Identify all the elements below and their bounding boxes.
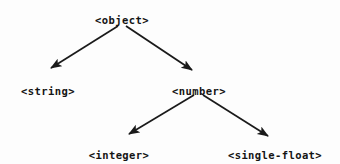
tree-diagram: <object><string><number><integer><single… — [0, 0, 340, 164]
node-number: <number> — [172, 85, 226, 97]
node-string: <string> — [21, 85, 75, 97]
edge-object-to-string — [51, 26, 118, 68]
edge-object-to-number — [126, 26, 192, 70]
edge-number-to-integer — [129, 95, 194, 134]
node-object: <object> — [95, 14, 149, 26]
edge-number-to-single-float — [203, 95, 268, 136]
edge-layer — [0, 0, 340, 164]
node-integer: <integer> — [89, 149, 150, 161]
node-single-float: <single-float> — [228, 149, 322, 161]
